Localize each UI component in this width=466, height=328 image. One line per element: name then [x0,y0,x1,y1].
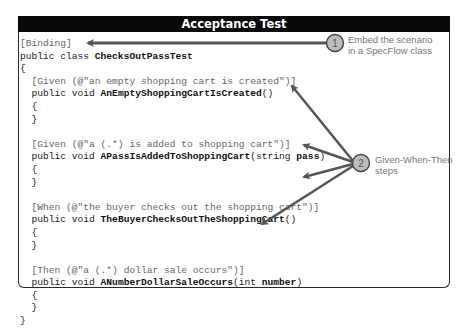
arrow-to-then [262,166,353,224]
callout-1-badge: 1 [327,35,344,52]
callout-2-line2: steps [375,165,453,176]
code-line: } [20,315,325,328]
callout-1-line1: Embed the scenario [348,34,433,45]
svg-text:1: 1 [332,38,338,49]
callout-1-text: Embed the scenario in a SpecFlow class [348,34,433,56]
svg-text:2: 2 [358,158,364,169]
callout-1-line2: in a SpecFlow class [348,45,433,56]
arrow-to-given-1 [292,86,353,161]
callout-2-text: Given-When-Then steps [375,154,453,176]
callout-2-badge: 2 [353,155,370,172]
callout-2-line1: Given-When-Then [375,154,453,165]
